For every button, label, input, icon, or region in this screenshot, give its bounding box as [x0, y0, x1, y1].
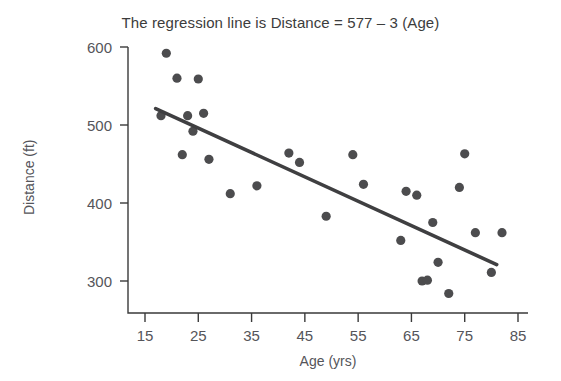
y-tick-label: 500	[87, 117, 112, 134]
data-point	[322, 212, 331, 221]
x-tick-label: 15	[137, 327, 154, 344]
data-point	[204, 155, 213, 164]
chart-canvas: 300400500600 1525354555657585 Distance (…	[0, 0, 561, 381]
data-point	[433, 258, 442, 267]
data-point	[412, 191, 421, 200]
x-tick-label: 45	[297, 327, 314, 344]
x-tick-label: 75	[456, 327, 473, 344]
data-point	[359, 180, 368, 189]
x-tick-label: 25	[190, 327, 207, 344]
data-point	[460, 149, 469, 158]
data-point	[487, 268, 496, 277]
x-axis-title: Age (yrs)	[300, 353, 357, 369]
data-point	[444, 289, 453, 298]
y-tick-labels: 300400500600	[87, 39, 112, 290]
data-point	[252, 181, 261, 190]
data-point	[284, 148, 293, 157]
data-point	[348, 150, 357, 159]
data-point	[396, 236, 405, 245]
scatterplot-figure: The regression line is Distance = 577 – …	[0, 0, 561, 381]
x-tick-marks	[145, 313, 518, 322]
data-point	[402, 187, 411, 196]
x-tick-label: 85	[510, 327, 527, 344]
regression-line	[156, 109, 497, 265]
data-point	[172, 74, 181, 83]
axis-lines	[128, 47, 528, 313]
x-tick-label: 35	[243, 327, 260, 344]
x-tick-label: 55	[350, 327, 367, 344]
data-point	[183, 111, 192, 120]
y-tick-label: 300	[87, 273, 112, 290]
y-axis-title: Distance (ft)	[21, 140, 37, 215]
data-point	[497, 228, 506, 237]
data-point	[455, 183, 464, 192]
data-point	[199, 109, 208, 118]
data-point	[428, 218, 437, 227]
x-tick-labels: 1525354555657585	[137, 327, 527, 344]
data-point	[226, 189, 235, 198]
data-points	[156, 49, 506, 298]
data-point	[471, 228, 480, 237]
data-point	[178, 150, 187, 159]
data-point	[295, 158, 304, 167]
data-point	[194, 74, 203, 83]
data-point	[423, 276, 432, 285]
y-tick-label: 400	[87, 195, 112, 212]
y-tick-label: 600	[87, 39, 112, 56]
x-tick-label: 65	[403, 327, 420, 344]
data-point	[162, 49, 171, 58]
y-tick-marks	[120, 47, 128, 281]
